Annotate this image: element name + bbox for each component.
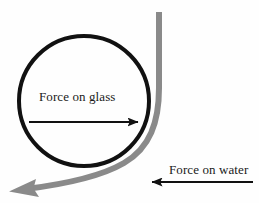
force-on-water-label: Force on water (169, 162, 248, 178)
force-on-glass-label: Force on glass (39, 89, 116, 105)
physics-force-diagram: Force on glass Force on water (0, 0, 259, 203)
